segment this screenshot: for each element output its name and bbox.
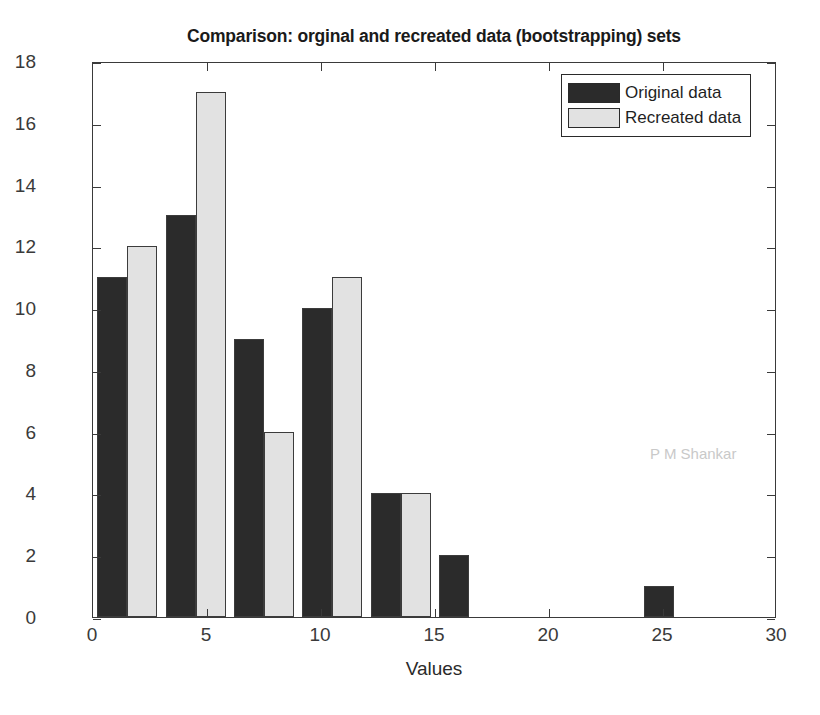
y-tick-right-0 <box>767 619 775 620</box>
bar-recreated-1 <box>196 92 226 617</box>
y-tick-label-18: 18 <box>0 51 36 73</box>
bar-original-1 <box>166 215 196 617</box>
y-tick-right-4 <box>767 495 775 496</box>
y-tick-right-16 <box>767 125 775 126</box>
x-tick-label-5: 5 <box>171 624 241 646</box>
y-tick-18 <box>93 63 101 64</box>
legend-entry-original: Original data <box>568 80 744 105</box>
y-tick-10 <box>93 310 101 311</box>
bar-original-2 <box>234 339 264 617</box>
y-tick-0 <box>93 619 101 620</box>
y-tick-right-14 <box>767 187 775 188</box>
x-tick-top-25 <box>663 63 664 71</box>
bar-recreated-0 <box>127 246 157 617</box>
y-tick-label-2: 2 <box>0 545 36 567</box>
figure-canvas: Comparison: orginal and recreated data (… <box>0 0 820 715</box>
bar-original-5 <box>439 555 469 617</box>
bar-original-8 <box>644 586 674 617</box>
x-tick-20 <box>549 609 550 617</box>
x-tick-label-30: 30 <box>741 624 811 646</box>
y-tick-6 <box>93 434 101 435</box>
chart-title: Comparison: orginal and recreated data (… <box>92 26 776 47</box>
y-tick-right-6 <box>767 434 775 435</box>
x-tick-top-15 <box>435 63 436 71</box>
x-tick-25 <box>663 609 664 617</box>
legend-label-recreated: Recreated data <box>625 108 741 128</box>
y-tick-label-6: 6 <box>0 422 36 444</box>
x-tick-label-25: 25 <box>627 624 697 646</box>
legend-label-original: Original data <box>625 83 721 103</box>
x-tick-15 <box>435 609 436 617</box>
y-tick-right-12 <box>767 248 775 249</box>
chart-legend: Original data Recreated data <box>561 74 751 137</box>
x-tick-label-0: 0 <box>57 624 127 646</box>
y-tick-label-16: 16 <box>0 113 36 135</box>
watermark-text: P M Shankar <box>650 445 736 462</box>
y-tick-right-10 <box>767 310 775 311</box>
bar-original-3 <box>302 308 332 617</box>
y-tick-12 <box>93 248 101 249</box>
y-tick-label-8: 8 <box>0 360 36 382</box>
bar-original-4 <box>371 493 401 617</box>
bars-layer <box>93 63 775 617</box>
y-tick-right-2 <box>767 557 775 558</box>
y-tick-right-8 <box>767 372 775 373</box>
y-tick-4 <box>93 495 101 496</box>
x-tick-label-20: 20 <box>513 624 583 646</box>
y-tick-label-10: 10 <box>0 298 36 320</box>
legend-swatch-original-icon <box>568 83 620 103</box>
plot-area <box>92 62 776 618</box>
y-tick-8 <box>93 372 101 373</box>
x-tick-top-20 <box>549 63 550 71</box>
x-tick-10 <box>321 609 322 617</box>
bar-recreated-2 <box>264 432 294 617</box>
x-tick-top-10 <box>321 63 322 71</box>
y-tick-16 <box>93 125 101 126</box>
y-tick-2 <box>93 557 101 558</box>
x-tick-label-15: 15 <box>399 624 469 646</box>
bar-recreated-4 <box>401 493 431 617</box>
y-tick-label-0: 0 <box>0 607 36 629</box>
x-tick-top-5 <box>207 63 208 71</box>
bar-recreated-3 <box>332 277 362 617</box>
legend-swatch-recreated-icon <box>568 108 620 128</box>
y-tick-label-12: 12 <box>0 236 36 258</box>
x-tick-5 <box>207 609 208 617</box>
y-tick-label-4: 4 <box>0 483 36 505</box>
y-tick-label-14: 14 <box>0 175 36 197</box>
legend-entry-recreated: Recreated data <box>568 105 744 130</box>
y-tick-14 <box>93 187 101 188</box>
x-tick-label-10: 10 <box>285 624 355 646</box>
bar-original-0 <box>97 277 127 617</box>
x-axis-title: Values <box>92 658 776 680</box>
y-tick-right-18 <box>767 63 775 64</box>
